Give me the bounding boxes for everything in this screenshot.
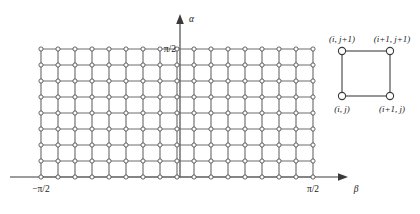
lattice-node — [124, 143, 128, 147]
lattice-node — [39, 63, 43, 67]
lattice-node — [209, 143, 213, 147]
lattice-node — [158, 95, 162, 99]
lattice-node — [243, 111, 247, 115]
lattice-node — [107, 127, 111, 131]
lattice-node — [311, 95, 315, 99]
lattice-node — [158, 47, 162, 51]
lattice-node — [260, 95, 264, 99]
lattice-node — [260, 175, 264, 179]
lattice-node — [243, 143, 247, 147]
lattice-node — [73, 111, 77, 115]
lattice-node — [90, 47, 94, 51]
lattice-node — [226, 143, 230, 147]
lattice-node — [260, 143, 264, 147]
lattice-node — [311, 47, 315, 51]
lattice-node — [277, 111, 281, 115]
lattice-node — [294, 159, 298, 163]
lattice-node — [107, 159, 111, 163]
lattice-node — [243, 47, 247, 51]
lattice-node — [90, 111, 94, 115]
lattice-node — [56, 95, 60, 99]
alpha-top-tick-label: π/2 — [164, 44, 176, 54]
lattice-node — [141, 111, 145, 115]
lattice-node — [141, 95, 145, 99]
lattice-node — [39, 175, 43, 179]
lattice-node — [260, 79, 264, 83]
lattice-node — [158, 127, 162, 131]
lattice-node — [294, 79, 298, 83]
lattice-node — [243, 63, 247, 67]
lattice-node — [260, 47, 264, 51]
lattice-node — [226, 95, 230, 99]
unit-cell-node-top-left — [338, 47, 345, 54]
lattice-node — [73, 47, 77, 51]
lattice-node — [243, 79, 247, 83]
lattice-node — [107, 79, 111, 83]
lattice-node — [294, 47, 298, 51]
lattice-node — [243, 95, 247, 99]
lattice-node — [226, 63, 230, 67]
lattice-node — [209, 95, 213, 99]
lattice-node — [73, 63, 77, 67]
lattice-node — [124, 159, 128, 163]
lattice-node — [56, 175, 60, 179]
lattice-node — [311, 79, 315, 83]
lattice-node — [39, 111, 43, 115]
lattice-figure: (i, j+1) (i+1, j+1) (i, j) (i+1, j) π/2 … — [0, 0, 420, 214]
alpha-axis-name: α — [189, 14, 195, 24]
lattice-node — [39, 79, 43, 83]
lattice-node — [294, 63, 298, 67]
lattice-node — [243, 127, 247, 131]
lattice-node — [226, 159, 230, 163]
figure-container: (i, j+1) (i+1, j+1) (i, j) (i+1, j) π/2 … — [0, 0, 420, 214]
lattice-node — [107, 95, 111, 99]
lattice-node — [124, 79, 128, 83]
lattice-node — [243, 159, 247, 163]
lattice-node — [107, 111, 111, 115]
lattice-node — [277, 159, 281, 163]
unit-cell-node-bottom-left — [338, 92, 345, 99]
lattice-node — [73, 175, 77, 179]
lattice-node — [90, 143, 94, 147]
lattice-node — [175, 143, 179, 147]
lattice-node — [124, 47, 128, 51]
lattice-node — [209, 111, 213, 115]
beta-axis-name: β — [353, 184, 359, 194]
unit-cell-inset: (i, j+1) (i+1, j+1) (i, j) (i+1, j) — [329, 34, 410, 114]
lattice-node — [124, 63, 128, 67]
lattice-node — [124, 127, 128, 131]
lattice-node — [124, 111, 128, 115]
lattice-node — [311, 143, 315, 147]
lattice-node — [277, 47, 281, 51]
lattice-node — [141, 143, 145, 147]
lattice-node — [158, 111, 162, 115]
right-arrow-icon — [338, 173, 348, 181]
lattice-node — [107, 175, 111, 179]
lattice-node — [90, 127, 94, 131]
lattice-node — [158, 79, 162, 83]
lattice-node — [39, 47, 43, 51]
lattice-node — [175, 159, 179, 163]
lattice-node — [175, 175, 179, 179]
unit-cell-label-top-right: (i+1, j+1) — [374, 34, 411, 44]
lattice-node — [141, 47, 145, 51]
lattice-node — [260, 63, 264, 67]
lattice-node — [107, 47, 111, 51]
lattice-node — [192, 95, 196, 99]
unit-cell-node-top-right — [386, 47, 393, 54]
lattice-node — [73, 143, 77, 147]
lattice-node — [209, 63, 213, 67]
beta-left-tick-label: −π/2 — [32, 184, 50, 194]
lattice-node — [124, 175, 128, 179]
lattice-node — [90, 79, 94, 83]
lattice-node — [277, 63, 281, 67]
lattice-node — [56, 111, 60, 115]
lattice-node — [311, 127, 315, 131]
lattice-node — [175, 63, 179, 67]
lattice-node — [209, 127, 213, 131]
lattice-node — [175, 79, 179, 83]
lattice-node — [175, 95, 179, 99]
lattice-node — [294, 143, 298, 147]
lattice-node — [175, 127, 179, 131]
lattice-node — [107, 63, 111, 67]
